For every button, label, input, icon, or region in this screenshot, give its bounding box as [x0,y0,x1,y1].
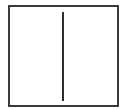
vertical-divider-line [62,12,64,101]
